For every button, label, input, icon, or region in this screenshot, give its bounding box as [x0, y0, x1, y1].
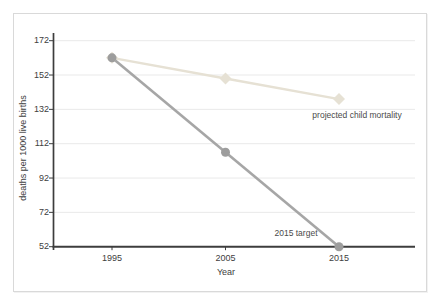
y-tick-label-152: 152 — [18, 70, 49, 81]
projected-diamond-marker-2005 — [220, 72, 232, 84]
projected-diamond-marker-2015 — [333, 93, 345, 105]
target-circle-marker-2015 — [335, 242, 344, 251]
x-tick-label-1995: 1995 — [90, 253, 134, 264]
annotation-2015-target: 2015 target — [274, 228, 317, 238]
chart-figure: deaths per 1000 live births Year project… — [0, 0, 440, 303]
annotation-projected-child-mortality: projected child mortality — [312, 110, 401, 120]
target-circle-marker-1995 — [108, 53, 117, 62]
x-tick-label-2005: 2005 — [204, 253, 248, 264]
y-tick-label-52: 52 — [18, 241, 49, 252]
x-axis-title: Year — [217, 267, 235, 277]
y-tick-label-72: 72 — [18, 207, 49, 218]
target-circle-marker-2005 — [221, 148, 230, 157]
x-tick-label-2015: 2015 — [317, 253, 361, 264]
y-tick-label-112: 112 — [18, 138, 49, 149]
y-tick-label-172: 172 — [18, 35, 49, 46]
y-tick-label-92: 92 — [18, 173, 49, 184]
y-tick-label-132: 132 — [18, 104, 49, 115]
